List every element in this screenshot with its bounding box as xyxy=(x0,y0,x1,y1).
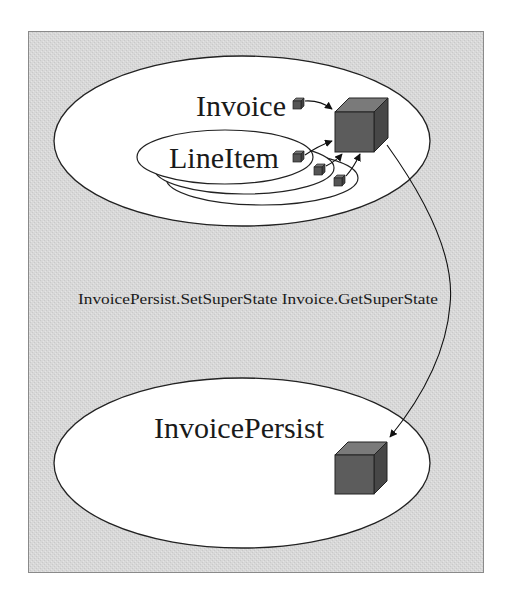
lineitem-label: LineItem xyxy=(169,141,279,174)
invoicepersist-label: InvoicePersist xyxy=(154,411,325,444)
invoice-item-cube-icon xyxy=(293,98,304,109)
lineitem-item-cube-3-icon xyxy=(334,175,345,186)
invoicepersist-state-cube-icon xyxy=(335,442,387,494)
lineitem-item-cube-1-icon xyxy=(293,151,304,162)
invoice-state-cube-icon xyxy=(335,98,388,152)
transfer-edge-label: InvoicePersist.SetSuperState Invoice.Get… xyxy=(78,290,438,307)
lineitem-item-cube-2-icon xyxy=(314,164,325,175)
invoice-label: Invoice xyxy=(196,89,286,122)
diagram-canvas: Invoice LineItem InvoicePersist xyxy=(0,0,511,598)
